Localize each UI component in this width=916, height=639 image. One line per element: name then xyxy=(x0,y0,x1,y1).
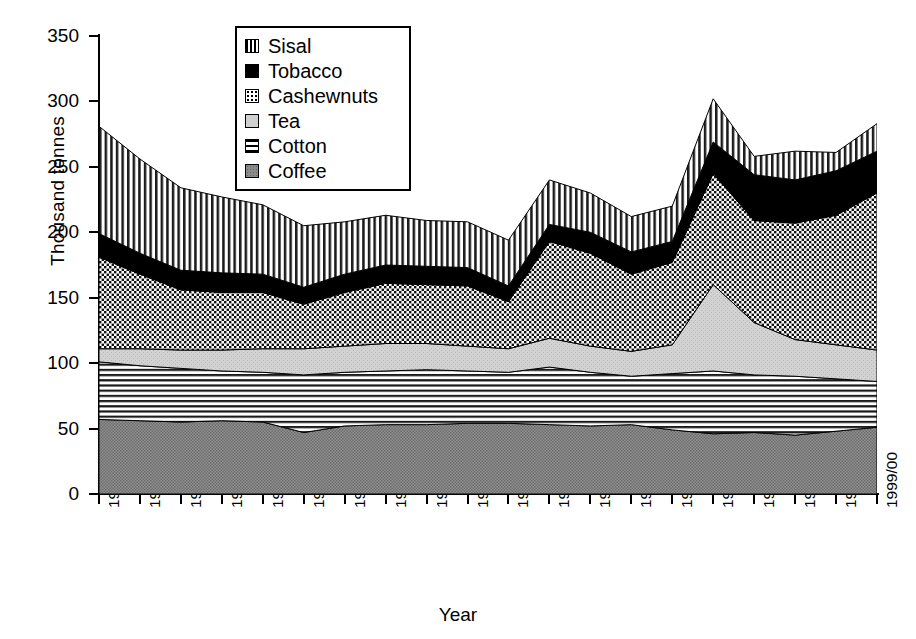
x-axis-tick xyxy=(835,495,837,504)
x-axis-tick xyxy=(180,495,182,504)
legend-item-sisal[interactable]: Sisal xyxy=(245,33,401,58)
legend-label: Tobacco xyxy=(268,61,343,81)
legend-item-tea[interactable]: Tea xyxy=(245,108,401,133)
legend-swatch-tobacco-icon xyxy=(245,64,259,78)
legend-label: Coffee xyxy=(268,161,327,181)
x-axis-tick-label: 1999/00 xyxy=(883,452,901,508)
y-axis-tick-label: 150 xyxy=(15,288,79,307)
legend-item-cotton[interactable]: Cotton xyxy=(245,133,401,158)
chart-figure: Thousand tonnes Year 0501001502002503003… xyxy=(0,0,916,639)
y-axis-tick-label: 50 xyxy=(15,419,79,438)
y-axis-tick-label: 100 xyxy=(15,353,79,372)
x-axis-tick xyxy=(507,495,509,504)
x-axis-tick xyxy=(548,495,550,504)
x-axis-tick xyxy=(753,495,755,504)
y-axis-tick-label: 350 xyxy=(15,26,79,45)
x-axis-tick xyxy=(671,495,673,504)
legend-label: Cashewnuts xyxy=(268,86,378,106)
legend-item-coffee[interactable]: Coffee xyxy=(245,158,401,183)
y-axis-tick xyxy=(89,231,99,233)
y-axis-tick xyxy=(89,35,99,37)
x-axis-tick xyxy=(98,495,100,504)
legend-swatch-sisal-icon xyxy=(245,39,259,53)
y-axis-tick xyxy=(89,100,99,102)
legend-item-cashewnuts[interactable]: Cashewnuts xyxy=(245,83,401,108)
x-axis-tick xyxy=(262,495,264,504)
x-axis-tick xyxy=(221,495,223,504)
x-axis-tick xyxy=(712,495,714,504)
x-axis-tick xyxy=(385,495,387,504)
x-axis-tick xyxy=(344,495,346,504)
plot-area xyxy=(99,36,877,494)
legend-swatch-cotton-icon xyxy=(245,139,259,153)
stacked-area-series xyxy=(99,36,877,494)
y-axis-tick-label: 0 xyxy=(15,484,79,503)
y-axis-tick-label: 300 xyxy=(15,91,79,110)
x-axis-tick xyxy=(794,495,796,504)
y-axis-tick-label: 200 xyxy=(15,222,79,241)
x-axis-tick xyxy=(426,495,428,504)
legend-label: Cotton xyxy=(268,136,327,156)
legend-label: Tea xyxy=(268,111,300,131)
x-axis-tick xyxy=(139,495,141,504)
y-axis-tick xyxy=(89,362,99,364)
legend: SisalTobaccoCashewnutsTeaCottonCoffee xyxy=(235,26,411,191)
x-axis-tick xyxy=(589,495,591,504)
y-axis-tick xyxy=(89,297,99,299)
legend-item-tobacco[interactable]: Tobacco xyxy=(245,58,401,83)
x-axis-tick xyxy=(303,495,305,504)
x-axis-tick xyxy=(630,495,632,504)
legend-swatch-tea-icon xyxy=(245,114,259,128)
x-axis-tick xyxy=(467,495,469,504)
x-axis-title: Year xyxy=(0,604,916,626)
legend-swatch-cashewnuts-icon xyxy=(245,89,259,103)
x-axis-tick xyxy=(876,495,878,504)
legend-swatch-coffee-icon xyxy=(245,164,259,178)
y-axis-tick-label: 250 xyxy=(15,157,79,176)
y-axis-tick xyxy=(89,428,99,430)
legend-label: Sisal xyxy=(268,36,311,56)
y-axis-tick xyxy=(89,166,99,168)
